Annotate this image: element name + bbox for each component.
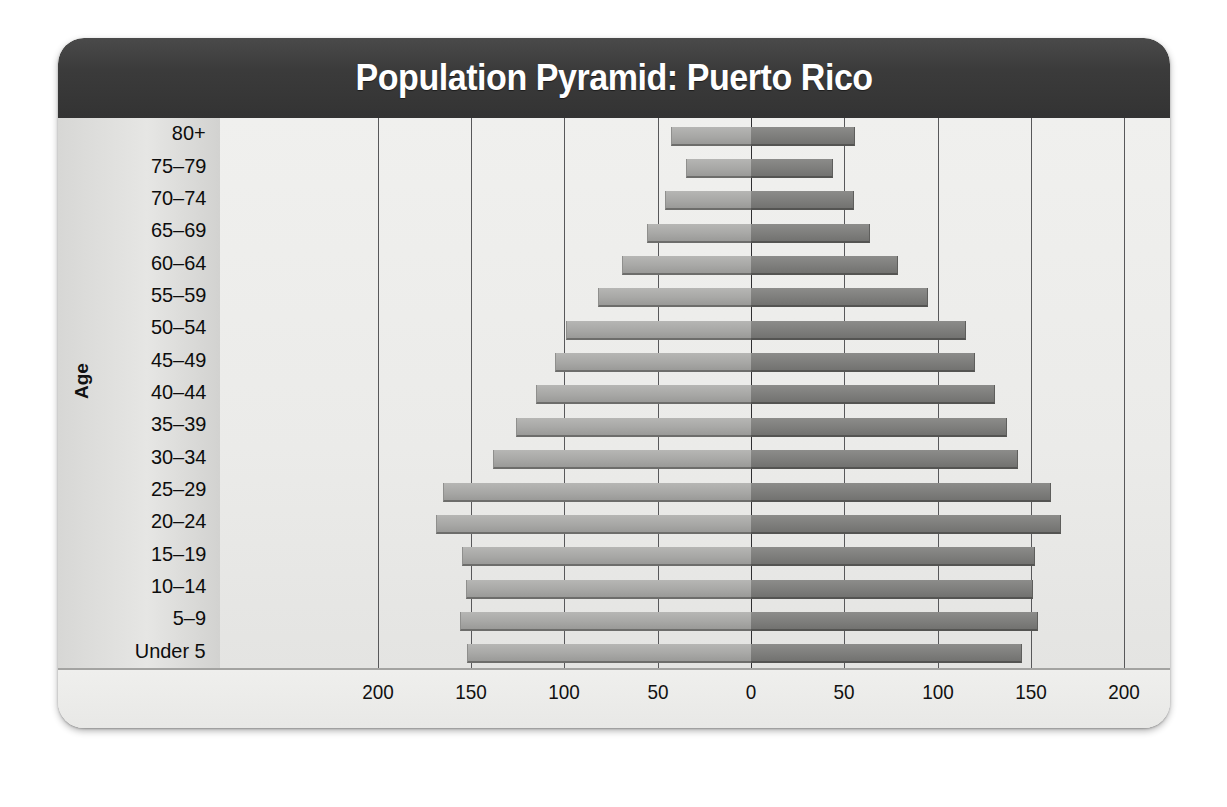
plot-area-wrapper: Age 80+75–7970–7465–6960–6455–5950–5445–…: [58, 118, 1170, 728]
y-tick-40-44: 40–44: [151, 380, 206, 404]
chart-card: Population Pyramid: Puerto Rico Age 80+7…: [58, 38, 1170, 728]
y-tick-55-59: 55–59: [151, 283, 206, 307]
bar-row: [220, 442, 1170, 474]
y-tick-15-19: 15–19: [151, 542, 206, 566]
bar-row: [220, 150, 1170, 182]
x-tick-label: 150: [455, 680, 487, 704]
y-axis-gutter: Age 80+75–7970–7465–6960–6455–5950–5445–…: [58, 118, 222, 668]
bar-female-25-29: [751, 483, 1051, 502]
bar-row: [220, 377, 1170, 409]
bar-male-60-64: [622, 256, 751, 275]
y-tick-80-: 80+: [172, 121, 206, 145]
bar-row: [220, 506, 1170, 538]
bar-female-70-74: [751, 191, 854, 210]
bar-female-55-59: [751, 288, 928, 307]
legend-item-female[interactable]: Female: [318, 726, 409, 728]
bar-female-20-24: [751, 515, 1061, 534]
y-tick-20-24: 20–24: [151, 509, 206, 533]
chart-legend: MaleFemale: [226, 726, 409, 728]
x-tick-label: 50: [647, 680, 668, 704]
x-axis-title-units: (in thousands): [702, 726, 848, 728]
chart-title-bar: Population Pyramid: Puerto Rico: [58, 38, 1170, 121]
bar-female-5-9: [751, 612, 1038, 631]
bar-male-10-14: [466, 580, 751, 599]
x-tick-label: 100: [922, 680, 954, 704]
legend-label: Male: [244, 726, 292, 728]
y-tick-50-54: 50–54: [151, 315, 206, 339]
bar-male-30-34: [493, 450, 751, 469]
bar-female-50-54: [751, 321, 966, 340]
bar-male-25-29: [443, 483, 751, 502]
bar-row: [220, 215, 1170, 247]
y-tick-35-39: 35–39: [151, 412, 206, 436]
chart-footer: MaleFemale Population (in thousands): [58, 718, 1170, 728]
bar-female-75-79: [751, 159, 833, 178]
bar-female-under-5: [751, 644, 1022, 663]
bar-male-35-39: [516, 418, 751, 437]
bar-female-60-64: [751, 256, 898, 275]
y-tick-under-5: Under 5: [135, 639, 206, 663]
bar-male-50-54: [566, 321, 751, 340]
legend-label: Female: [336, 726, 409, 728]
bar-male-under-5: [467, 644, 751, 663]
y-tick-70-74: 70–74: [151, 186, 206, 210]
bar-row: [220, 409, 1170, 441]
y-tick-45-49: 45–49: [151, 348, 206, 372]
bar-male-45-49: [555, 353, 751, 372]
x-tick-label: 0: [746, 680, 757, 704]
x-tick-label: 200: [362, 680, 394, 704]
bar-male-40-44: [536, 385, 751, 404]
bar-male-75-79: [686, 159, 751, 178]
x-tick-label: 150: [1015, 680, 1047, 704]
bar-male-65-69: [647, 224, 751, 243]
bar-row: [220, 183, 1170, 215]
bar-row: [220, 118, 1170, 150]
bar-male-55-59: [598, 288, 751, 307]
y-tick-75-79: 75–79: [151, 154, 206, 178]
bar-female-65-69: [751, 224, 870, 243]
bar-male-70-74: [665, 191, 751, 210]
bar-female-40-44: [751, 385, 995, 404]
bar-male-5-9: [460, 612, 751, 631]
x-axis-title-bold: Population: [588, 726, 702, 728]
x-tick-label: 200: [1108, 680, 1140, 704]
y-tick-10-14: 10–14: [151, 574, 206, 598]
bar-row: [220, 636, 1170, 668]
bar-female-10-14: [751, 580, 1033, 599]
bar-row: [220, 474, 1170, 506]
y-tick-65-69: 65–69: [151, 218, 206, 242]
bar-female-30-34: [751, 450, 1018, 469]
bar-row: [220, 247, 1170, 279]
plot-canvas: [220, 118, 1170, 668]
x-axis-title: Population (in thousands): [588, 726, 847, 728]
bar-male-15-19: [462, 547, 751, 566]
x-tick-label: 50: [834, 680, 855, 704]
bar-row: [220, 344, 1170, 376]
bar-male-20-24: [436, 515, 751, 534]
bar-row: [220, 539, 1170, 571]
y-tick-30-34: 30–34: [151, 445, 206, 469]
bar-female-80-: [751, 127, 855, 146]
y-tick-60-64: 60–64: [151, 251, 206, 275]
bar-male-80-: [671, 127, 751, 146]
bar-row: [220, 280, 1170, 312]
bar-row: [220, 312, 1170, 344]
bar-row: [220, 603, 1170, 635]
y-tick-5-9: 5–9: [173, 606, 206, 630]
bar-row: [220, 571, 1170, 603]
chart-title: Population Pyramid: Puerto Rico: [355, 57, 872, 99]
bar-female-15-19: [751, 547, 1035, 566]
legend-item-male[interactable]: Male: [226, 726, 292, 728]
y-tick-25-29: 25–29: [151, 477, 206, 501]
y-axis-tick-labels: 80+75–7970–7465–6960–6455–5950–5445–4940…: [82, 118, 214, 668]
x-tick-label: 100: [549, 680, 581, 704]
bar-female-45-49: [751, 353, 975, 372]
bar-female-35-39: [751, 418, 1007, 437]
